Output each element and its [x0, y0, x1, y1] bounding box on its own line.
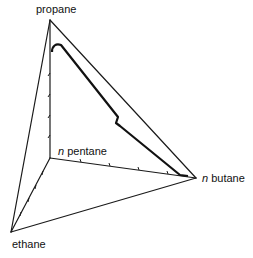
ethane-label-text: ethane — [12, 238, 46, 250]
n-prefix: n — [58, 145, 64, 157]
vertex-label-n-butane: n butane — [202, 172, 245, 184]
butane-label-text: butane — [211, 172, 245, 184]
edge-pentane-butane — [50, 158, 196, 178]
edge-ethane-butane — [11, 178, 196, 232]
edge-pentane-ethane — [11, 158, 50, 232]
vertex-label-ethane: ethane — [12, 238, 46, 250]
n-prefix: n — [202, 172, 208, 184]
vertex-label-n-pentane: n pentane — [58, 145, 107, 157]
propane-label-text: propane — [36, 3, 76, 15]
tetrahedron-diagram — [0, 0, 253, 258]
edge-propane-ethane — [11, 20, 50, 232]
vertex-label-propane: propane — [36, 3, 76, 15]
pentane-label-text: pentane — [67, 145, 107, 157]
